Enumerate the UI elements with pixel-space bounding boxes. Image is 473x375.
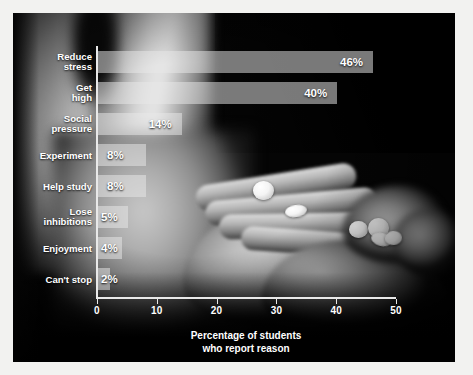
- category-label: Enjoyment: [0, 243, 92, 254]
- bar-row: Help study8%: [0, 171, 473, 202]
- bar-value-label: 5%: [101, 206, 118, 228]
- category-label-line2: pressure: [0, 125, 92, 136]
- category-label-line1: Social: [0, 114, 92, 125]
- bar-value-label: 46%: [98, 51, 363, 73]
- x-axis-title: Percentage of students who report reason: [96, 330, 396, 355]
- category-label-line1: Reduce: [0, 52, 92, 63]
- category-label: Experiment: [0, 150, 92, 161]
- x-axis-title-line1: Percentage of students: [96, 330, 396, 343]
- category-label-line1: Get: [0, 83, 92, 94]
- figure: 01020304050 Reducestress46%Gethigh40%Soc…: [0, 0, 473, 375]
- category-label: Help study: [0, 181, 92, 192]
- bar-row: Gethigh40%: [0, 78, 473, 109]
- x-tick: [276, 299, 277, 304]
- x-tick-label: 40: [330, 305, 342, 316]
- x-tick-label: 30: [271, 305, 283, 316]
- bar-value-label: 8%: [107, 144, 124, 166]
- category-label-line2: stress: [0, 63, 92, 74]
- bar-value-label: 2%: [101, 268, 118, 290]
- x-tick: [97, 299, 98, 304]
- bar-row: Loseinhibitions5%: [0, 202, 473, 233]
- bar-value-label: 40%: [98, 82, 327, 104]
- bar-row: Socialpressure14%: [0, 109, 473, 140]
- category-label-line2: high: [0, 94, 92, 105]
- bar-value-label: 4%: [101, 237, 118, 259]
- x-tick-label: 50: [390, 305, 402, 316]
- x-tick: [217, 299, 218, 304]
- category-label-line1: Experiment: [0, 150, 92, 161]
- x-tick: [157, 299, 158, 304]
- category-label-line1: Can't stop: [0, 274, 92, 285]
- category-label: Socialpressure: [0, 114, 92, 135]
- category-label-line1: Lose: [0, 207, 92, 218]
- bar-value-label: 14%: [98, 113, 172, 135]
- category-label-line1: Enjoyment: [0, 243, 92, 254]
- x-tick-label: 0: [94, 305, 100, 316]
- x-tick-label: 10: [151, 305, 163, 316]
- x-tick: [336, 299, 337, 304]
- bar-chart: 01020304050 Reducestress46%Gethigh40%Soc…: [0, 0, 473, 375]
- category-label-line1: Help study: [0, 181, 92, 192]
- x-axis-line: [96, 297, 396, 299]
- bar-row: Reducestress46%: [0, 47, 473, 78]
- bar-row: Enjoyment4%: [0, 233, 473, 264]
- bar-row: Experiment8%: [0, 140, 473, 171]
- category-label: Gethigh: [0, 83, 92, 104]
- category-label: Can't stop: [0, 274, 92, 285]
- x-tick: [396, 299, 397, 304]
- bar-value-label: 8%: [107, 175, 124, 197]
- x-tick-label: 20: [211, 305, 223, 316]
- category-label-line2: inhibitions: [0, 218, 92, 229]
- category-label: Loseinhibitions: [0, 207, 92, 228]
- x-axis-title-line2: who report reason: [96, 343, 396, 356]
- category-label: Reducestress: [0, 52, 92, 73]
- bar-row: Can't stop2%: [0, 264, 473, 295]
